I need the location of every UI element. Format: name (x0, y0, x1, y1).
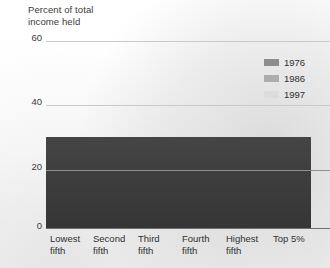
bar-groups (46, 0, 330, 229)
legend-swatch-icon-1997 (264, 91, 279, 98)
y-tick-label-20: 20 (2, 161, 42, 172)
legend-item-1986[interactable]: 1986 (264, 71, 324, 86)
y-tick-label-60: 60 (2, 32, 42, 43)
x-axis-label-0: Lowest fifth (50, 233, 80, 257)
legend-swatch-icon-1976 (264, 59, 279, 66)
legend-label-1976: 1976 (284, 57, 305, 68)
legend-item-1976[interactable]: 1976 (264, 55, 324, 70)
legend-swatch-icon-1986 (264, 75, 279, 82)
x-axis-label-2: Third fifth (138, 233, 160, 257)
legend-item-1997[interactable]: 1997 (264, 87, 324, 102)
x-axis-label-5: Top 5% (273, 233, 305, 245)
x-axis-labels: Lowest fifthSecond fifthThird fifthFourt… (46, 233, 330, 267)
y-tick-label-40: 40 (2, 96, 42, 107)
y-tick-label-0: 0 (2, 220, 42, 231)
x-axis-label-4: Highest fifth (226, 233, 258, 257)
legend: 1976 1986 1997 (264, 55, 324, 103)
legend-label-1997: 1997 (284, 89, 305, 100)
legend-label-1986: 1986 (284, 73, 305, 84)
x-axis-label-1: Second fifth (93, 233, 125, 257)
bar-chart: Percent of total income held 60 40 20 0 … (0, 0, 330, 268)
x-axis-label-3: Fourth fifth (182, 233, 209, 257)
